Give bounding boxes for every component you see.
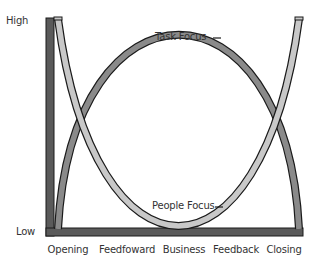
x-tick-feedfoward: Feedfoward: [99, 244, 155, 255]
task-focus-label: Task Focus: [155, 31, 206, 42]
people-focus-start-cap: [54, 17, 62, 20]
y-axis: [46, 18, 54, 236]
series-people-focus: [58, 19, 299, 226]
x-tick-opening: Opening: [48, 244, 89, 255]
x-tick-feedback: Feedback: [213, 244, 259, 255]
people-focus-label: People Focus: [152, 200, 215, 211]
y-label-low: Low: [16, 226, 35, 237]
x-tick-closing: Closing: [266, 244, 301, 255]
people-focus-end-cap: [295, 17, 303, 20]
y-label-high: High: [6, 15, 28, 26]
x-tick-business: Business: [163, 244, 206, 255]
